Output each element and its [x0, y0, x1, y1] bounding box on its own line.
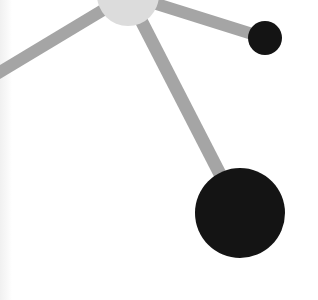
- network-diagram: [0, 0, 318, 300]
- diagram-svg: [0, 0, 318, 300]
- node-small-dark: [248, 21, 282, 55]
- node-large-dark: [195, 168, 285, 258]
- node-hub: [97, 0, 159, 26]
